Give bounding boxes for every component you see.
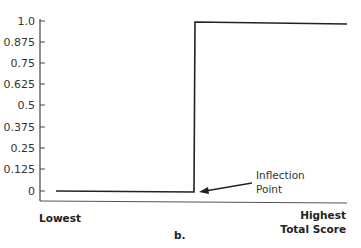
svg-text:0.125: 0.125 <box>4 163 36 176</box>
annotation-line1: Inflection <box>256 169 305 181</box>
step-line <box>56 22 347 192</box>
figure-caption: b. <box>174 229 186 241</box>
x-label-lowest: Lowest <box>39 212 81 224</box>
y-ticks <box>40 21 45 191</box>
annotation-line2: Point <box>256 183 282 195</box>
y-tick-labels: 1.0 0.875 0.75 0.625 0.5 0.375 0.25 0.12… <box>4 15 36 198</box>
x-label-highest: Highest <box>300 209 346 221</box>
inflection-arrow <box>199 183 252 194</box>
x-label-total-score: Total Score <box>280 223 346 235</box>
step-function-chart: 1.0 0.875 0.75 0.625 0.5 0.375 0.25 0.12… <box>0 0 361 248</box>
svg-text:0.625: 0.625 <box>4 78 36 91</box>
svg-text:0.875: 0.875 <box>4 36 36 49</box>
svg-text:0.75: 0.75 <box>11 57 36 70</box>
svg-text:0.25: 0.25 <box>11 142 36 155</box>
svg-text:0.375: 0.375 <box>4 121 36 134</box>
x-axis <box>40 201 347 203</box>
svg-text:0.5: 0.5 <box>18 99 36 112</box>
svg-text:0: 0 <box>28 185 35 198</box>
svg-text:1.0: 1.0 <box>18 15 36 28</box>
